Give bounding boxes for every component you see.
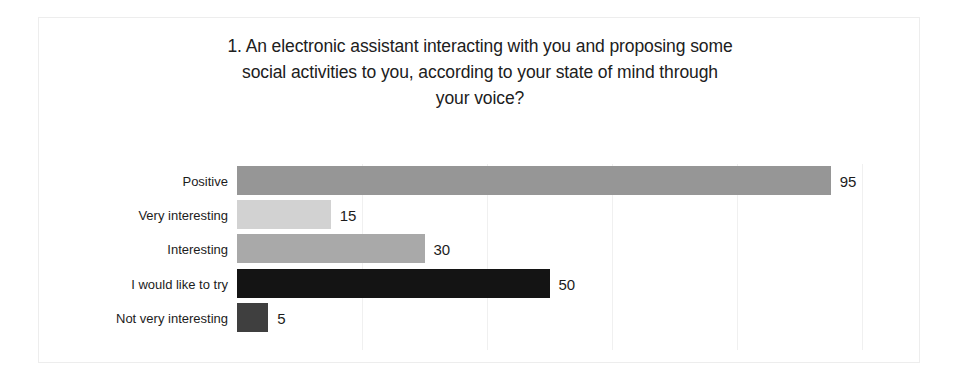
chart-title-line-3: your voice?: [100, 85, 860, 111]
category-label: Positive: [182, 174, 228, 189]
chart-container: 1. An electronic assistant interacting w…: [0, 0, 959, 378]
category-label: Interesting: [167, 242, 228, 257]
bar: [237, 166, 831, 195]
bar: [237, 234, 425, 263]
bar-value-label: 30: [434, 241, 451, 258]
plot-area: Positive95Very interesting15Interesting3…: [237, 164, 862, 336]
category-label: I would like to try: [131, 276, 228, 291]
chart-title-line-2: social activities to you, according to y…: [100, 59, 860, 85]
bar-series: Positive95Very interesting15Interesting3…: [237, 164, 862, 336]
bar: [237, 303, 268, 332]
bar-row: Positive95: [237, 164, 862, 198]
bar: [237, 200, 331, 229]
bar-value-label: 50: [559, 275, 576, 292]
bar-value-label: 5: [277, 309, 285, 326]
category-label: Not very interesting: [116, 310, 228, 325]
bar-value-label: 15: [340, 207, 357, 224]
bar: [237, 269, 550, 298]
chart-title-line-1: 1. An electronic assistant interacting w…: [100, 33, 860, 59]
bar-row: I would like to try50: [237, 267, 862, 301]
bar-row: Very interesting15: [237, 198, 862, 232]
bar-row: Interesting30: [237, 232, 862, 266]
chart-title: 1. An electronic assistant interacting w…: [100, 33, 860, 111]
gridline: [862, 164, 863, 350]
bar-row: Not very interesting5: [237, 301, 862, 335]
bar-value-label: 95: [840, 173, 857, 190]
category-label: Very interesting: [138, 208, 228, 223]
